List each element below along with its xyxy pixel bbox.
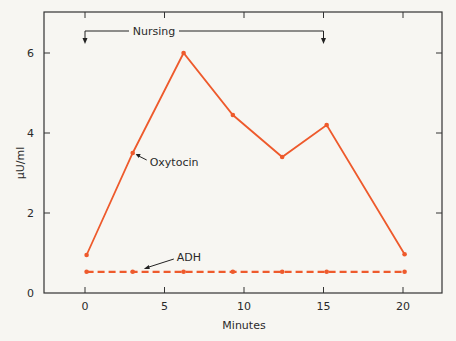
x-axis-label: Minutes (222, 319, 266, 332)
oxytocin-label: Oxytocin (150, 156, 199, 169)
data-series (84, 51, 407, 274)
data-point-oxytocin (324, 123, 329, 128)
annotations: NursingOxytocinADH (83, 25, 327, 269)
data-point-adh (181, 270, 186, 275)
plot-border (44, 12, 442, 293)
data-point-oxytocin (231, 113, 236, 118)
x-tick-label: 15 (317, 300, 331, 313)
data-point-oxytocin (84, 253, 89, 258)
data-point-oxytocin (130, 151, 135, 156)
data-point-oxytocin (181, 51, 186, 56)
data-point-adh (84, 270, 89, 275)
line-chart: 051015200246 NursingOxytocinADH Minutes … (0, 0, 456, 341)
data-point-adh (130, 270, 135, 275)
x-tick-label: 0 (82, 300, 89, 313)
label-pointer (146, 259, 174, 268)
y-tick-label: 4 (27, 127, 34, 140)
chart-container: 051015200246 NursingOxytocinADH Minutes … (0, 0, 456, 341)
y-axis-label: μU/ml (14, 147, 27, 180)
data-point-oxytocin (402, 252, 407, 257)
arrow-head-icon (136, 154, 141, 158)
nursing-label: Nursing (133, 25, 175, 38)
y-tick-label: 0 (27, 287, 34, 300)
data-point-adh (280, 270, 285, 275)
y-tick-label: 2 (27, 207, 34, 220)
x-tick-label: 20 (396, 300, 410, 313)
x-tick-label: 10 (237, 300, 251, 313)
data-point-adh (231, 270, 236, 275)
x-tick-label: 5 (161, 300, 168, 313)
data-point-adh (402, 270, 407, 275)
data-point-adh (324, 270, 329, 275)
arrow-head-icon (321, 38, 326, 44)
axis-ticks: 051015200246 (27, 12, 442, 313)
y-tick-label: 6 (27, 47, 34, 60)
data-point-oxytocin (280, 155, 285, 160)
adh-label: ADH (177, 251, 201, 264)
arrow-head-icon (83, 38, 88, 44)
arrow-head-icon (144, 265, 150, 269)
plot-frame (44, 12, 442, 293)
